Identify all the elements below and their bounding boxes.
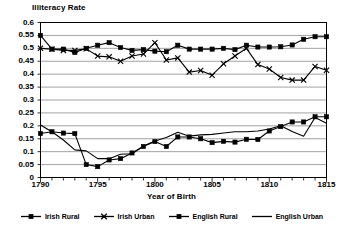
x-axis-title: Year of Birth: [0, 192, 343, 201]
legend-label: English Rural: [193, 213, 238, 220]
series-marker-square: [233, 48, 237, 52]
legend-marker-line-icon: [251, 212, 273, 221]
y-axis-tick-label: 0.35: [0, 82, 34, 91]
series-marker-square: [302, 120, 306, 124]
legend-item-english-urban: English Urban: [251, 212, 323, 221]
series-marker-square: [302, 37, 306, 41]
series-marker-square: [118, 45, 122, 49]
x-axis-tick-label: 1810: [249, 180, 289, 189]
series-marker-square: [176, 135, 180, 139]
legend-label: Irish Urban: [118, 213, 155, 220]
series-marker-cross: [312, 64, 317, 69]
y-axis-tick-label: 0.5: [0, 43, 34, 52]
x-axis-tick-label: 1795: [78, 180, 118, 189]
y-axis-tick-label: 0.6: [0, 18, 34, 27]
legend-item-irish-urban: Irish Urban: [93, 212, 155, 221]
series-marker-cross: [255, 62, 260, 67]
y-axis-tick-label: 0.15: [0, 134, 34, 143]
series-marker-square: [130, 48, 134, 52]
y-axis-tick-label: 0.2: [0, 121, 34, 130]
series-marker-square: [61, 131, 65, 135]
series-marker-square: [290, 120, 294, 124]
series-marker-square: [290, 43, 294, 47]
legend-label: Irish Rural: [45, 213, 80, 220]
series-marker-square: [313, 35, 317, 39]
legend-item-english-rural: English Rural: [168, 212, 238, 221]
series-marker-square: [210, 47, 214, 51]
y-axis-tick-label: 0.1: [0, 147, 34, 156]
y-axis-tick-label: 0.4: [0, 69, 34, 78]
series-marker-square: [164, 50, 168, 54]
series-marker-square: [279, 45, 283, 49]
series-marker-square: [73, 131, 77, 135]
series-marker-cross: [221, 61, 226, 66]
x-axis-tick-label: 1800: [135, 180, 175, 189]
series-marker-square: [141, 48, 145, 52]
series-marker-square: [210, 141, 214, 145]
x-axis-tick-label: 1790: [21, 180, 61, 189]
series-marker-square: [96, 43, 100, 47]
x-axis-tick-label: 1805: [192, 180, 232, 189]
legend-label: English Urban: [276, 213, 323, 220]
legend-marker-square-icon: [20, 212, 42, 221]
series-marker-square: [324, 35, 328, 39]
chart-legend: Irish RuralIrish UrbanEnglish RuralEngli…: [0, 212, 343, 221]
legend-item-irish-rural: Irish Rural: [20, 212, 80, 221]
series-marker-square: [164, 144, 168, 148]
series-line-english-urban: [41, 118, 327, 159]
y-axis-tick-label: 0.3: [0, 95, 34, 104]
series-marker-square: [187, 47, 191, 51]
series-marker-square: [199, 137, 203, 141]
y-axis-tick-label: 0.05: [0, 160, 34, 169]
y-axis-tick-label: 0.25: [0, 108, 34, 117]
y-axis-tick-label: 0.45: [0, 56, 34, 65]
series-marker-cross: [210, 73, 215, 78]
series-marker-cross: [267, 66, 272, 71]
series-marker-square: [256, 45, 260, 49]
series-marker-square: [176, 43, 180, 47]
series-marker-square: [199, 47, 203, 51]
y-axis-tick-label: 0.55: [0, 30, 34, 39]
series-marker-square: [221, 139, 225, 143]
series-line-irish-rural: [41, 35, 327, 52]
legend-marker-cross-icon: [93, 212, 115, 221]
series-marker-square: [38, 131, 42, 135]
series-marker-square: [153, 49, 157, 53]
series-marker-cross: [232, 53, 237, 58]
series-marker-square: [84, 162, 88, 166]
series-marker-square: [118, 157, 122, 161]
series-line-english-rural: [41, 117, 327, 167]
series-marker-square: [244, 137, 248, 141]
x-axis-tick-label: 1815: [307, 180, 343, 189]
series-marker-square: [38, 33, 42, 37]
series-marker-square: [324, 115, 328, 119]
series-marker-square: [233, 140, 237, 144]
series-marker-square: [267, 45, 271, 49]
illiteracy-rate-chart: Illiteracy Rate 00.050.10.150.20.250.30.…: [0, 0, 343, 236]
series-marker-square: [96, 165, 100, 169]
series-marker-square: [107, 41, 111, 45]
series-marker-square: [221, 46, 225, 50]
series-marker-cross: [152, 40, 157, 45]
series-marker-square: [256, 137, 260, 141]
legend-marker-square-icon: [168, 212, 190, 221]
